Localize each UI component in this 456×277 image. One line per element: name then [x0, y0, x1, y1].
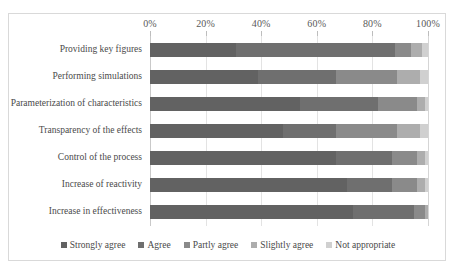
category-label: Transparency of the effects: [39, 125, 142, 136]
gridline-100: [428, 36, 429, 226]
x-axis-tick-label: 20%: [196, 18, 215, 29]
bar-segment: [336, 124, 397, 138]
bar-segment: [150, 205, 353, 219]
bar-segment: [300, 97, 378, 111]
bar-segment: [411, 43, 422, 57]
category-label: Performing simulations: [53, 71, 142, 82]
bar-segment: [420, 70, 428, 84]
bar-segment: [353, 205, 414, 219]
bar-segment: [425, 151, 428, 165]
chart-legend: Strongly agreeAgreePartly agreeSlightly …: [0, 240, 456, 250]
stacked-bar-row: [150, 43, 428, 57]
x-tick-mark-0: [150, 31, 151, 36]
legend-item[interactable]: Agree: [138, 240, 170, 250]
x-axis-tick-label: 80%: [363, 18, 382, 29]
x-axis-labels: 0%20%40%60%80%100%: [0, 18, 456, 32]
bar-segment: [422, 43, 428, 57]
stacked-bar-row: [150, 151, 428, 165]
legend-item[interactable]: Not appropriate: [326, 240, 395, 250]
plot-area: [150, 36, 428, 226]
category-axis-labels: Providing key figuresPerforming simulati…: [0, 36, 146, 226]
legend-swatch-icon: [138, 242, 144, 248]
bar-segment: [150, 97, 300, 111]
legend-label: Partly agree: [193, 240, 239, 250]
stacked-bar-row: [150, 70, 428, 84]
bar-segment: [417, 178, 425, 192]
legend-swatch-icon: [326, 242, 332, 248]
x-axis-tick-label: 40%: [252, 18, 271, 29]
category-label: Providing key figures: [60, 44, 142, 55]
legend-swatch-icon: [184, 242, 190, 248]
bar-segment: [397, 124, 419, 138]
stacked-bar-row: [150, 97, 428, 111]
x-tick-mark-100: [428, 31, 429, 36]
legend-label: Slightly agree: [260, 240, 313, 250]
bar-segment: [414, 205, 425, 219]
bar-segment: [236, 43, 394, 57]
bar-segment: [397, 70, 419, 84]
legend-label: Not appropriate: [335, 240, 395, 250]
bar-segment: [417, 97, 425, 111]
bar-segment: [150, 178, 347, 192]
x-tick-mark-20: [206, 31, 207, 36]
stacked-bar-row: [150, 178, 428, 192]
legend-swatch-icon: [61, 242, 67, 248]
category-label: Parameterization of characteristics: [11, 98, 142, 109]
x-axis-tick-label: 0%: [143, 18, 157, 29]
category-label: Increase in effectiveness: [49, 206, 142, 217]
stacked-bar-row: [150, 205, 428, 219]
category-label: Control of the process: [58, 152, 142, 163]
category-label: Increase of reactivity: [62, 179, 142, 190]
legend-label: Agree: [147, 240, 170, 250]
legend-item[interactable]: Slightly agree: [251, 240, 313, 250]
bar-segment: [417, 151, 425, 165]
legend-item[interactable]: Partly agree: [184, 240, 239, 250]
bar-segment: [378, 97, 417, 111]
x-tick-mark-40: [261, 31, 262, 36]
legend-item[interactable]: Strongly agree: [61, 240, 126, 250]
bar-segment: [425, 205, 428, 219]
bar-segment: [425, 97, 428, 111]
x-tick-mark-80: [372, 31, 373, 36]
legend-swatch-icon: [251, 242, 257, 248]
bar-segment: [336, 151, 392, 165]
stacked-bar-row: [150, 124, 428, 138]
bar-segment: [392, 151, 417, 165]
legend-label: Strongly agree: [70, 240, 126, 250]
bar-segment: [420, 124, 428, 138]
x-tick-mark-60: [317, 31, 318, 36]
bar-segment: [150, 70, 258, 84]
bar-segment: [395, 43, 412, 57]
bar-segment: [150, 43, 236, 57]
bar-segment: [425, 178, 428, 192]
bar-segment: [150, 124, 283, 138]
bar-segment: [258, 70, 336, 84]
bar-segment: [347, 178, 391, 192]
bar-segment: [283, 124, 336, 138]
x-axis-tick-label: 100%: [416, 18, 440, 29]
bar-segment: [150, 151, 336, 165]
bar-segment: [392, 178, 417, 192]
x-axis-tick-label: 60%: [307, 18, 326, 29]
bar-segment: [336, 70, 397, 84]
